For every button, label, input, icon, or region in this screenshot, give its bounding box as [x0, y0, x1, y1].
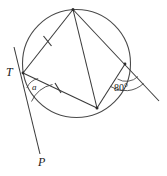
- angle-label-a: a: [32, 83, 37, 92]
- geometry-figure: [0, 0, 167, 176]
- vertex-dot-bottom: [96, 107, 99, 110]
- tangent-line-TP: [14, 47, 40, 154]
- vertex-dot-top: [72, 8, 75, 11]
- vertex-dot-T: [22, 72, 25, 75]
- chord-top-to-bottom: [73, 10, 97, 109]
- vertex-dot-right: [124, 63, 127, 66]
- point-label-P: P: [38, 156, 45, 168]
- angle-label-80-degrees: 80°: [114, 83, 128, 93]
- geometry-diagram-canvas: T P a 80°: [0, 0, 167, 176]
- point-label-T: T: [6, 66, 13, 78]
